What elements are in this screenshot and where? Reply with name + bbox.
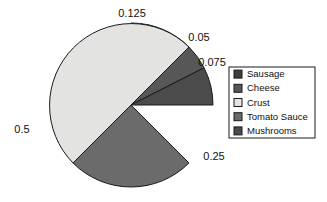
pie-chart-figure: 0.1250.050.0750.250.5 SausageCheeseCrust… (0, 0, 327, 202)
legend-swatch-cheese (234, 84, 242, 92)
chart-legend: SausageCheeseCrustTomato SauceMushrooms (229, 67, 315, 138)
legend-swatch-crust (234, 99, 242, 107)
pie-value-label: 0.075 (198, 56, 226, 68)
legend-label-crust: Crust (247, 97, 270, 108)
pie-value-label: 0.05 (188, 31, 209, 43)
pie-value-label: 0.125 (118, 7, 146, 19)
legend-label-mushrooms: Mushrooms (247, 125, 297, 136)
legend-label-tomato-sauce: Tomato Sauce (247, 111, 308, 122)
chart-canvas: 0.1250.050.0750.250.5 SausageCheeseCrust… (0, 0, 327, 202)
legend-label-cheese: Cheese (247, 82, 280, 93)
legend-swatch-mushrooms (234, 127, 242, 135)
pie-slices-group (50, 23, 213, 187)
legend-swatch-sausage (234, 70, 242, 78)
legend-label-sausage: Sausage (247, 68, 285, 79)
legend-swatch-tomato-sauce (234, 113, 242, 121)
pie-value-label: 0.25 (203, 150, 224, 162)
pie-value-label: 0.5 (14, 123, 29, 135)
